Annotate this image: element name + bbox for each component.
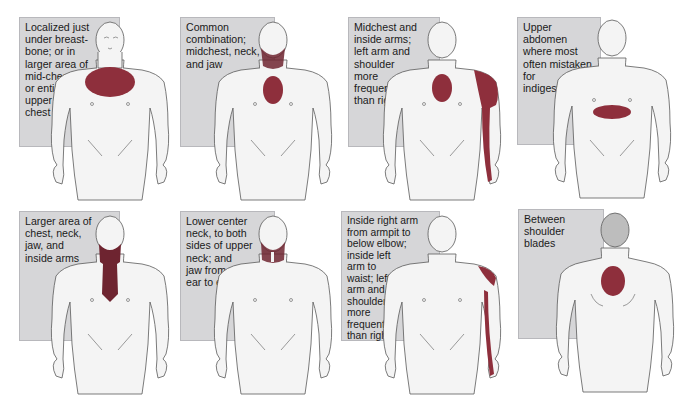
panel-between-shoulder-blades: Between shoulder blades bbox=[525, 202, 700, 404]
body-figure-front bbox=[350, 0, 525, 202]
body-figure-front bbox=[175, 0, 350, 202]
pain-area-upper-chest bbox=[85, 67, 135, 97]
body-figure-front bbox=[175, 202, 350, 404]
panel-inside-arms: Inside right arm from armpit to below el… bbox=[350, 202, 525, 404]
pain-area-midchest bbox=[432, 74, 452, 102]
pain-area-upper-abdomen bbox=[593, 105, 631, 119]
pain-area-between-shoulder-blades bbox=[601, 266, 625, 296]
body-figure-front bbox=[525, 0, 700, 202]
body-figure-front bbox=[0, 202, 175, 404]
body-figure-back bbox=[525, 202, 700, 404]
body-figure-front bbox=[0, 0, 175, 202]
panel-chest-neck-jaw-arms: Larger area of chest, neck, jaw, and ins… bbox=[0, 202, 175, 404]
panel-upper-chest: Localized just under breast- bone; or in… bbox=[0, 0, 175, 202]
panel-upper-abdomen: Upper abdomen where most often mistaken … bbox=[525, 0, 700, 202]
panel-midchest-neck-jaw: Common combination; midchest, neck, and … bbox=[175, 0, 350, 202]
panel-midchest-inside-arms: Midchest and inside arms; left arm and s… bbox=[350, 0, 525, 202]
back-of-head bbox=[601, 213, 629, 247]
panel-lower-neck-jaw: Lower center neck, to both sides of uppe… bbox=[175, 202, 350, 404]
pain-area-midchest bbox=[263, 76, 283, 104]
body-figure-front bbox=[350, 202, 525, 404]
